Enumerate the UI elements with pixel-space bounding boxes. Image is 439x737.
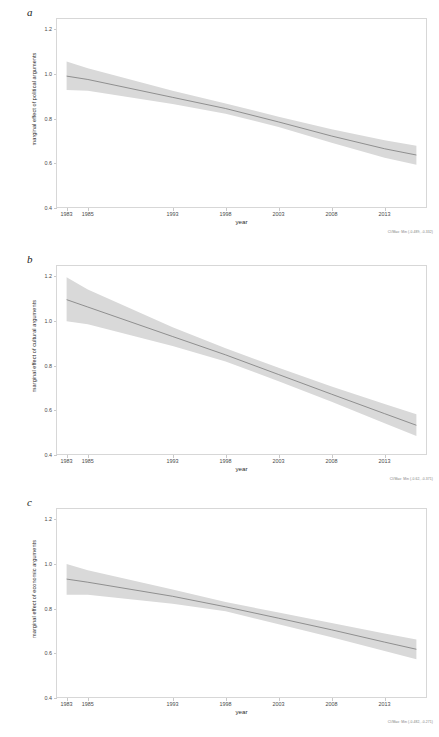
y-tick-label: 0.6 [30,650,52,656]
x-tick-mark [67,698,68,701]
x-tick-label: 1985 [82,701,94,707]
confidence-band [67,277,417,436]
x-tick-label: 2003 [273,458,285,464]
x-tick-label: 2013 [379,458,391,464]
plot-area-c [56,508,427,698]
figure-page: { "figure": { "xlabel": "year", "xticks"… [0,0,439,737]
x-tick-label: 2003 [273,211,285,217]
x-tick-label: 1993 [167,211,179,217]
x-tick-label: 1998 [220,211,232,217]
x-tick-mark [332,208,333,211]
x-tick-label: 2013 [379,701,391,707]
x-tick-label: 1985 [82,211,94,217]
x-tick-mark [279,698,280,701]
x-tick-label: 2013 [379,211,391,217]
x-tick-label: 1993 [167,458,179,464]
panel-footnote-a: CI/Max: Min (-0.489, -0.332) [388,230,433,234]
x-tick-label: 1998 [220,458,232,464]
x-tick-mark [279,455,280,458]
x-tick-label: 1993 [167,701,179,707]
y-tick-label: 0.4 [30,695,52,701]
x-tick-label: 2008 [326,458,338,464]
x-tick-mark [173,698,174,701]
y-tick-label: 0.6 [30,160,52,166]
x-axis-label-a: year [56,218,427,225]
plot-svg-b [56,265,427,455]
x-tick-label: 2003 [273,701,285,707]
x-tick-mark [173,455,174,458]
plot-area-b [56,265,427,455]
x-tick-mark [332,455,333,458]
confidence-band [67,564,417,659]
panel-a: a marginal effect of political arguments… [0,2,439,240]
x-tick-label: 1998 [220,701,232,707]
panel-footnote-b: CI/Max: Min (-0.62, -0.371) [390,477,433,481]
plot-svg-a [56,18,427,208]
y-tick-label: 1.2 [30,26,52,32]
x-tick-mark [279,208,280,211]
confidence-band [67,62,417,165]
x-tick-mark [385,455,386,458]
y-tick-label: 0.8 [30,116,52,122]
x-axis-label-c: year [56,708,427,715]
x-tick-label: 1983 [61,211,73,217]
y-tick-label: 0.8 [30,363,52,369]
x-tick-mark [88,455,89,458]
x-tick-mark [67,208,68,211]
x-tick-mark [226,455,227,458]
y-tick-label: 0.8 [30,606,52,612]
x-tick-mark [332,698,333,701]
x-tick-label: 1983 [61,701,73,707]
x-tick-mark [385,698,386,701]
plot-area-a [56,18,427,208]
x-tick-label: 2008 [326,701,338,707]
x-tick-mark [67,455,68,458]
x-tick-mark [173,208,174,211]
x-tick-mark [226,208,227,211]
y-tick-label: 1.0 [30,318,52,324]
x-axis-label-b: year [56,465,427,472]
x-tick-mark [226,698,227,701]
x-tick-label: 1983 [61,458,73,464]
x-tick-mark [385,208,386,211]
y-tick-label: 0.6 [30,407,52,413]
y-tick-label: 1.2 [30,273,52,279]
panel-b: b marginal effect of cultural arguments … [0,249,439,487]
y-axis-ticks-c: 1.21.00.80.60.4 [28,508,56,698]
x-tick-label: 2008 [326,211,338,217]
x-tick-mark [88,208,89,211]
plot-svg-c [56,508,427,698]
x-tick-mark [88,698,89,701]
y-tick-label: 1.2 [30,516,52,522]
y-tick-label: 1.0 [30,561,52,567]
y-tick-label: 1.0 [30,71,52,77]
panel-footnote-c: CI/Max: Min (-0.482, -0.271) [388,720,433,724]
panel-c: c marginal effect of economic arguments … [0,492,439,730]
x-tick-label: 1985 [82,458,94,464]
